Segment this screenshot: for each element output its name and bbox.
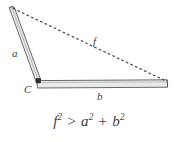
formula-operator: >	[66, 113, 77, 129]
rod-a-highlight	[12, 7, 39, 81]
label-side-b: b	[97, 91, 103, 102]
formula-term2-base: b	[112, 113, 120, 129]
formula-term2-exponent: 2	[120, 112, 125, 122]
label-side-f: f	[93, 36, 96, 47]
formula-term1-exponent: 2	[89, 112, 94, 122]
rod-b-shape	[37, 80, 168, 88]
formula-plus-operator: +	[98, 113, 109, 129]
label-vertex-c: C	[24, 84, 31, 95]
formula-term1-base: a	[81, 113, 89, 129]
label-side-a: a	[12, 48, 18, 59]
formula-lhs-exponent: 2	[58, 112, 63, 122]
angle-marker-icon	[36, 78, 41, 83]
rod-b-body	[37, 80, 168, 88]
rod-a-shape	[9, 6, 41, 82]
geometry-figure: a b f C f2 > a2 + b2	[0, 0, 178, 142]
formula-expression: f2 > a2 + b2	[0, 114, 178, 129]
